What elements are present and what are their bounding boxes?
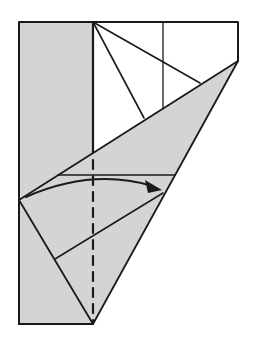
origami-diagram bbox=[0, 0, 253, 348]
